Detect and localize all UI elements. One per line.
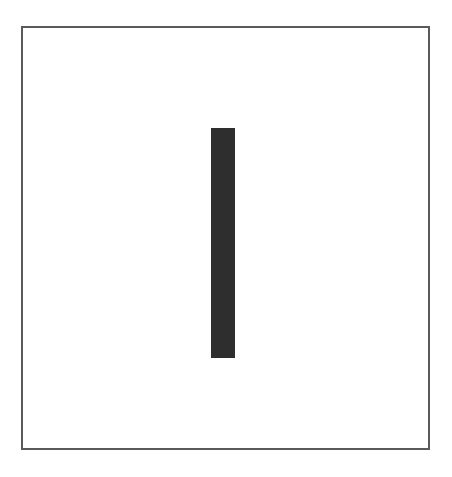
- vertical-bar: [211, 128, 235, 358]
